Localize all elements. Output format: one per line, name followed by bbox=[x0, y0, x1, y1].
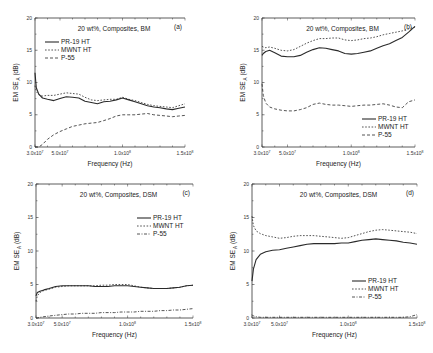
x-tick-exponent: 8 bbox=[192, 150, 194, 154]
series-line-pr-19-ht bbox=[35, 73, 185, 110]
x-tick-label: 1.5x108 bbox=[185, 321, 202, 327]
x-tick-label: 1.0x108 bbox=[114, 150, 131, 156]
y-tick-label: 10 bbox=[243, 248, 249, 254]
x-tick-mantissa: 3.0x10 bbox=[254, 150, 269, 156]
y-label-unit: (dB) bbox=[13, 232, 21, 246]
x-tick-label: 1.5x108 bbox=[177, 150, 194, 156]
x-tick-mantissa: 5.0x10 bbox=[52, 150, 67, 156]
figure: 051015203.0x1075.0x1071.0x1081.5x108Freq… bbox=[0, 0, 433, 353]
y-label-main: EM SE bbox=[239, 81, 246, 102]
legend-label: PR-19 HT bbox=[61, 38, 90, 45]
x-tick-exponent: 7 bbox=[69, 321, 71, 325]
x-tick-label: 3.0x107 bbox=[244, 321, 261, 327]
series-line-p-55 bbox=[262, 84, 415, 111]
y-axis-label: EM SE A (dB) bbox=[13, 232, 22, 270]
x-tick-mantissa: 1.0x10 bbox=[343, 150, 358, 156]
legend-label: P-55 bbox=[378, 131, 392, 138]
series-line-pr-19-ht bbox=[252, 239, 417, 281]
panel-label: (d) bbox=[406, 189, 414, 197]
legend-label: MWNT HT bbox=[368, 285, 399, 292]
x-tick-exponent: 7 bbox=[43, 321, 45, 325]
x-tick-label: 5.0x107 bbox=[271, 321, 288, 327]
legend-label: P-55 bbox=[153, 230, 167, 237]
x-tick-exponent: 7 bbox=[42, 150, 44, 154]
y-tick-label: 5 bbox=[246, 281, 249, 287]
x-tick-exponent: 8 bbox=[129, 150, 131, 154]
y-tick-label: 0 bbox=[246, 315, 249, 321]
x-tick-exponent: 8 bbox=[355, 321, 357, 325]
legend-label: PR-19 HT bbox=[378, 115, 407, 122]
y-tick-label: 5 bbox=[29, 111, 32, 117]
legend-label: P-55 bbox=[368, 293, 382, 300]
x-tick-label: 5.0x107 bbox=[54, 321, 71, 327]
y-axis-label: EM SE A (dB) bbox=[12, 63, 21, 101]
y-axis-label: EM SE A (dB) bbox=[229, 232, 238, 270]
legend: PR-19 HTMWNT HTP-55 bbox=[137, 214, 184, 237]
x-tick-label: 3.0x107 bbox=[254, 150, 271, 156]
legend-label: MWNT HT bbox=[153, 222, 184, 229]
y-tick-label: 20 bbox=[27, 181, 33, 187]
panel-label: (a) bbox=[174, 23, 182, 31]
y-axis-label: EM SE A (dB) bbox=[239, 63, 248, 101]
x-axis-label: Frequency (Hz) bbox=[88, 160, 133, 168]
panel-title: 20 wt%, Composites, BM bbox=[78, 25, 151, 33]
x-tick-label: 1.0x108 bbox=[119, 321, 136, 327]
series-line-mwnt-ht bbox=[36, 285, 193, 302]
series-line-mwnt-ht bbox=[35, 86, 185, 108]
y-tick-label: 15 bbox=[26, 47, 32, 53]
x-tick-mantissa: 3.0x10 bbox=[28, 321, 43, 327]
x-tick-mantissa: 1.0x10 bbox=[340, 321, 355, 327]
y-tick-label: 0 bbox=[29, 144, 32, 150]
x-tick-mantissa: 5.0x10 bbox=[54, 321, 69, 327]
series-line-pr-19-ht bbox=[36, 285, 193, 296]
x-tick-label: 5.0x107 bbox=[52, 150, 69, 156]
x-tick-label: 1.5x108 bbox=[407, 150, 424, 156]
x-tick-mantissa: 1.5x10 bbox=[177, 150, 192, 156]
x-tick-mantissa: 1.0x10 bbox=[119, 321, 134, 327]
y-tick-label: 0 bbox=[256, 144, 259, 150]
y-tick-label: 10 bbox=[26, 79, 32, 85]
x-tick-mantissa: 3.0x10 bbox=[27, 150, 42, 156]
x-tick-exponent: 7 bbox=[67, 150, 69, 154]
x-tick-mantissa: 3.0x10 bbox=[244, 321, 259, 327]
chart-panel-b: 051015203.0x1075.0x1071.0x1081.5x108Freq… bbox=[239, 15, 424, 168]
legend-label: PR-19 HT bbox=[368, 277, 397, 284]
y-tick-label: 0 bbox=[30, 315, 33, 321]
chart-panel-d: 051015203.0x1075.0x1071.0x1081.5x108Freq… bbox=[229, 181, 426, 339]
x-tick-label: 3.0x107 bbox=[28, 321, 45, 327]
x-tick-exponent: 8 bbox=[422, 150, 424, 154]
x-tick-mantissa: 1.5x10 bbox=[185, 321, 200, 327]
y-label-unit: (dB) bbox=[229, 232, 237, 246]
x-tick-exponent: 8 bbox=[424, 321, 426, 325]
y-label-main: EM SE bbox=[12, 81, 19, 102]
panel-title: 20 wt%, Composites, DSM bbox=[300, 191, 377, 199]
legend-label: P-55 bbox=[61, 54, 75, 61]
x-tick-label: 5.0x107 bbox=[279, 150, 296, 156]
y-label-main: EM SE bbox=[13, 249, 20, 270]
x-tick-exponent: 8 bbox=[358, 150, 360, 154]
x-axis-label: Frequency (Hz) bbox=[92, 331, 137, 339]
y-label-main: EM SE bbox=[229, 249, 236, 270]
legend: PR-19 HTMWNT HTP-55 bbox=[362, 115, 409, 138]
x-tick-exponent: 7 bbox=[269, 150, 271, 154]
y-tick-label: 5 bbox=[256, 111, 259, 117]
y-label-unit: (dB) bbox=[12, 63, 20, 77]
chart-panel-c: 051015203.0x1075.0x1071.0x1081.5x108Freq… bbox=[13, 181, 202, 339]
x-tick-label: 1.0x108 bbox=[343, 150, 360, 156]
x-axis-label: Frequency (Hz) bbox=[316, 160, 361, 168]
y-tick-label: 10 bbox=[253, 79, 259, 85]
y-label-unit: (dB) bbox=[239, 63, 247, 77]
y-tick-label: 10 bbox=[27, 248, 33, 254]
panel-label: (c) bbox=[182, 189, 190, 197]
legend: PR-19 HTMWNT HTP-55 bbox=[45, 38, 92, 61]
x-tick-exponent: 7 bbox=[294, 150, 296, 154]
series-line-mwnt-ht bbox=[252, 216, 417, 238]
x-tick-exponent: 7 bbox=[259, 321, 261, 325]
panel-title: 20 wt%, Composites, DSM bbox=[80, 191, 157, 199]
x-axis-label: Frequency (Hz) bbox=[312, 331, 357, 339]
x-tick-label: 3.0x107 bbox=[27, 150, 44, 156]
panel-title: 20 wt%, Composites, BM bbox=[306, 25, 379, 33]
y-tick-label: 15 bbox=[27, 214, 33, 220]
x-tick-exponent: 8 bbox=[134, 321, 136, 325]
x-tick-mantissa: 1.0x10 bbox=[114, 150, 129, 156]
